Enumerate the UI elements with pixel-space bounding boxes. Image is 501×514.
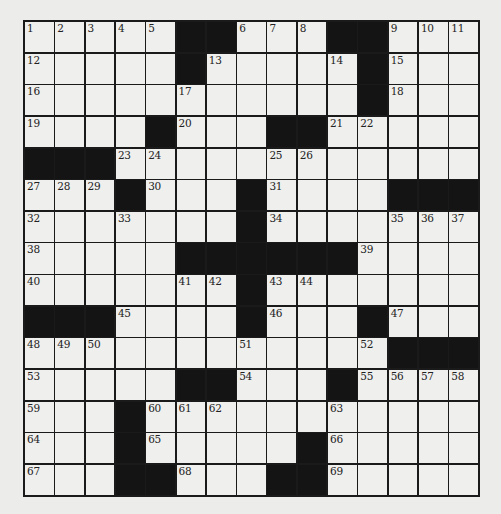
grid-cell[interactable]	[86, 465, 115, 495]
grid-cell[interactable]	[116, 85, 145, 115]
grid-cell[interactable]	[55, 402, 84, 432]
grid-cell[interactable]	[237, 54, 266, 84]
grid-cell[interactable]	[207, 180, 236, 210]
grid-cell[interactable]	[358, 275, 387, 305]
grid-cell[interactable]	[86, 402, 115, 432]
grid-cell[interactable]	[419, 54, 448, 84]
grid-cell[interactable]	[237, 433, 266, 463]
grid-cell[interactable]	[207, 85, 236, 115]
grid-cell[interactable]	[449, 85, 478, 115]
grid-cell[interactable]: 27	[25, 180, 54, 210]
grid-cell[interactable]: 28	[55, 180, 84, 210]
grid-cell[interactable]	[55, 117, 84, 147]
grid-cell[interactable]	[389, 433, 418, 463]
grid-cell[interactable]: 8	[298, 22, 327, 52]
grid-cell[interactable]: 38	[25, 243, 54, 273]
grid-cell[interactable]: 23	[116, 149, 145, 179]
grid-cell[interactable]: 58	[449, 370, 478, 400]
grid-cell[interactable]	[449, 149, 478, 179]
grid-cell[interactable]	[298, 338, 327, 368]
grid-cell[interactable]	[298, 212, 327, 242]
grid-cell[interactable]	[116, 338, 145, 368]
grid-cell[interactable]	[177, 307, 206, 337]
grid-cell[interactable]	[146, 275, 175, 305]
grid-cell[interactable]	[419, 275, 448, 305]
grid-cell[interactable]: 49	[55, 338, 84, 368]
grid-cell[interactable]	[389, 243, 418, 273]
grid-cell[interactable]	[419, 433, 448, 463]
grid-cell[interactable]: 21	[328, 117, 357, 147]
grid-cell[interactable]	[267, 54, 296, 84]
grid-cell[interactable]	[237, 465, 266, 495]
grid-cell[interactable]: 33	[116, 212, 145, 242]
grid-cell[interactable]	[207, 433, 236, 463]
grid-cell[interactable]	[389, 275, 418, 305]
grid-cell[interactable]: 41	[177, 275, 206, 305]
grid-cell[interactable]: 13	[207, 54, 236, 84]
grid-cell[interactable]: 11	[449, 22, 478, 52]
grid-cell[interactable]	[237, 117, 266, 147]
grid-cell[interactable]	[449, 54, 478, 84]
grid-cell[interactable]	[55, 433, 84, 463]
grid-cell[interactable]	[298, 54, 327, 84]
grid-cell[interactable]	[449, 465, 478, 495]
grid-cell[interactable]	[358, 433, 387, 463]
grid-cell[interactable]	[177, 338, 206, 368]
grid-cell[interactable]: 3	[86, 22, 115, 52]
grid-cell[interactable]	[419, 149, 448, 179]
grid-cell[interactable]	[328, 149, 357, 179]
grid-cell[interactable]	[86, 275, 115, 305]
grid-cell[interactable]: 2	[55, 22, 84, 52]
grid-cell[interactable]	[328, 338, 357, 368]
grid-cell[interactable]: 67	[25, 465, 54, 495]
grid-cell[interactable]	[358, 212, 387, 242]
grid-cell[interactable]	[328, 307, 357, 337]
grid-cell[interactable]: 19	[25, 117, 54, 147]
grid-cell[interactable]: 68	[177, 465, 206, 495]
grid-cell[interactable]: 59	[25, 402, 54, 432]
grid-cell[interactable]	[86, 54, 115, 84]
grid-cell[interactable]: 48	[25, 338, 54, 368]
grid-cell[interactable]	[267, 370, 296, 400]
grid-cell[interactable]: 55	[358, 370, 387, 400]
grid-cell[interactable]: 15	[389, 54, 418, 84]
grid-cell[interactable]	[86, 243, 115, 273]
grid-cell[interactable]	[419, 307, 448, 337]
grid-cell[interactable]	[207, 338, 236, 368]
grid-cell[interactable]: 16	[25, 85, 54, 115]
grid-cell[interactable]	[116, 370, 145, 400]
grid-cell[interactable]	[207, 212, 236, 242]
grid-cell[interactable]	[207, 307, 236, 337]
grid-cell[interactable]	[389, 402, 418, 432]
grid-cell[interactable]	[207, 465, 236, 495]
grid-cell[interactable]: 54	[237, 370, 266, 400]
grid-cell[interactable]	[419, 243, 448, 273]
grid-cell[interactable]: 57	[419, 370, 448, 400]
grid-cell[interactable]	[86, 117, 115, 147]
grid-cell[interactable]	[237, 85, 266, 115]
grid-cell[interactable]: 40	[25, 275, 54, 305]
grid-cell[interactable]	[267, 402, 296, 432]
grid-cell[interactable]: 53	[25, 370, 54, 400]
grid-cell[interactable]	[116, 243, 145, 273]
grid-cell[interactable]: 36	[419, 212, 448, 242]
grid-cell[interactable]: 45	[116, 307, 145, 337]
grid-cell[interactable]	[419, 465, 448, 495]
grid-cell[interactable]: 39	[358, 243, 387, 273]
grid-cell[interactable]	[237, 149, 266, 179]
grid-cell[interactable]	[358, 402, 387, 432]
grid-cell[interactable]: 44	[298, 275, 327, 305]
grid-cell[interactable]: 5	[146, 22, 175, 52]
grid-cell[interactable]: 61	[177, 402, 206, 432]
grid-cell[interactable]: 46	[267, 307, 296, 337]
grid-cell[interactable]: 60	[146, 402, 175, 432]
grid-cell[interactable]	[298, 180, 327, 210]
grid-cell[interactable]	[328, 85, 357, 115]
grid-cell[interactable]: 14	[328, 54, 357, 84]
grid-cell[interactable]	[146, 243, 175, 273]
grid-cell[interactable]	[389, 117, 418, 147]
grid-cell[interactable]	[449, 275, 478, 305]
grid-cell[interactable]: 10	[419, 22, 448, 52]
grid-cell[interactable]	[146, 307, 175, 337]
grid-cell[interactable]: 12	[25, 54, 54, 84]
